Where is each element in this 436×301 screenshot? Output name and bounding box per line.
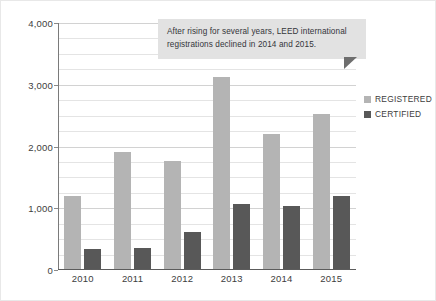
- bar-registered-2012: [164, 161, 181, 270]
- y-axis-tick-label: 3,000: [28, 79, 53, 90]
- bar-group: [64, 23, 101, 270]
- annotation-text: After rising for several years, LEED int…: [167, 26, 357, 51]
- x-axis-tick-label-2015: 2015: [320, 273, 342, 284]
- legend-label: REGISTERED: [375, 94, 432, 104]
- x-axis-tick-label-2013: 2013: [221, 273, 243, 284]
- bar-certified-2015: [333, 196, 350, 270]
- plot-area: [58, 23, 356, 270]
- bar-certified-2010: [84, 249, 101, 270]
- legend-swatch-icon: [364, 96, 371, 103]
- x-axis-tick-label-2011: 2011: [122, 273, 143, 284]
- legend-item-certified[interactable]: CERTIFIED: [364, 109, 432, 119]
- x-axis-tick-label-2010: 2010: [72, 273, 94, 284]
- bar-group: [114, 23, 151, 270]
- y-axis-tick-label: 2,000: [28, 141, 53, 152]
- legend-label: CERTIFIED: [375, 109, 421, 119]
- x-axis-line: [58, 269, 356, 271]
- legend-swatch-icon: [364, 111, 371, 118]
- bar-certified-2011: [134, 248, 151, 270]
- chart-legend: REGISTEREDCERTIFIED: [364, 94, 432, 124]
- bar-registered-2015: [313, 114, 330, 270]
- y-axis-tick-label: 1,000: [28, 203, 53, 214]
- bar-registered-2010: [64, 196, 81, 270]
- bar-group: [164, 23, 201, 270]
- annotation-pointer-icon: [344, 57, 357, 69]
- bar-group: [213, 23, 250, 270]
- bar-certified-2014: [283, 206, 300, 270]
- bar-registered-2013: [213, 77, 230, 270]
- y-axis-tick-label: 4,000: [28, 18, 53, 29]
- bar-registered-2011: [114, 152, 131, 270]
- bars-layer: [58, 23, 356, 270]
- y-axis-tick-label: 0: [48, 265, 53, 276]
- bar-chart-figure: 01,0002,0003,0004,000 201020112012201320…: [0, 0, 436, 301]
- annotation-callout: After rising for several years, LEED int…: [158, 19, 366, 59]
- legend-item-registered[interactable]: REGISTERED: [364, 94, 432, 104]
- y-axis-tick-labels: 01,0002,0003,0004,000: [1, 1, 53, 300]
- x-axis-tick-label-2014: 2014: [271, 273, 293, 284]
- bar-certified-2012: [184, 232, 201, 270]
- x-axis-tick-labels: 201020112012201320142015: [58, 273, 356, 291]
- bar-certified-2013: [233, 204, 250, 270]
- bar-group: [263, 23, 300, 270]
- bar-registered-2014: [263, 134, 280, 270]
- y-axis-tick: [54, 270, 58, 271]
- x-axis-tick-label-2012: 2012: [171, 273, 193, 284]
